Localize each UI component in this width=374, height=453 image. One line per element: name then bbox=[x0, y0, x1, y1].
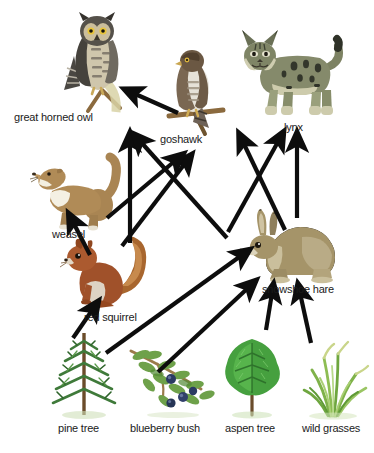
lynx-image bbox=[232, 26, 344, 120]
label-aspen_tree: aspen tree bbox=[225, 422, 275, 434]
label-pine_tree: pine tree bbox=[58, 422, 99, 434]
label-blueberry_bush: blueberry bush bbox=[130, 422, 200, 434]
blueberry-bush-image bbox=[127, 345, 217, 417]
label-lynx: lynx bbox=[284, 121, 303, 133]
weasel-image bbox=[30, 155, 120, 229]
red-squirrel-image bbox=[60, 232, 152, 312]
arrow-snowshoe_hare-to-great_horned_owl bbox=[140, 141, 227, 238]
goshawk-image bbox=[165, 48, 227, 134]
snowshoe-hare-image bbox=[240, 207, 340, 285]
arrow-wild_grasses-to-snowshoe_hare bbox=[300, 293, 311, 343]
label-snowshoe_hare: snowshoe hare bbox=[262, 283, 334, 295]
label-weasel: weasel bbox=[52, 228, 85, 240]
wild-grasses-image bbox=[294, 340, 372, 420]
food-web-diagram: great horned owlgoshawklynxweaselred squ… bbox=[0, 0, 374, 453]
arrow-aspen_tree-to-snowshoe_hare bbox=[266, 293, 272, 330]
label-red_squirrel: red squirrel bbox=[84, 311, 137, 323]
label-wild_grasses: wild grasses bbox=[302, 422, 360, 434]
label-great_horned_owl: great horned owl bbox=[14, 111, 93, 123]
great-horned-owl-image bbox=[58, 12, 136, 112]
pine-tree-image bbox=[47, 331, 121, 419]
aspen-tree-image bbox=[215, 337, 289, 419]
label-goshawk: goshawk bbox=[160, 133, 202, 145]
